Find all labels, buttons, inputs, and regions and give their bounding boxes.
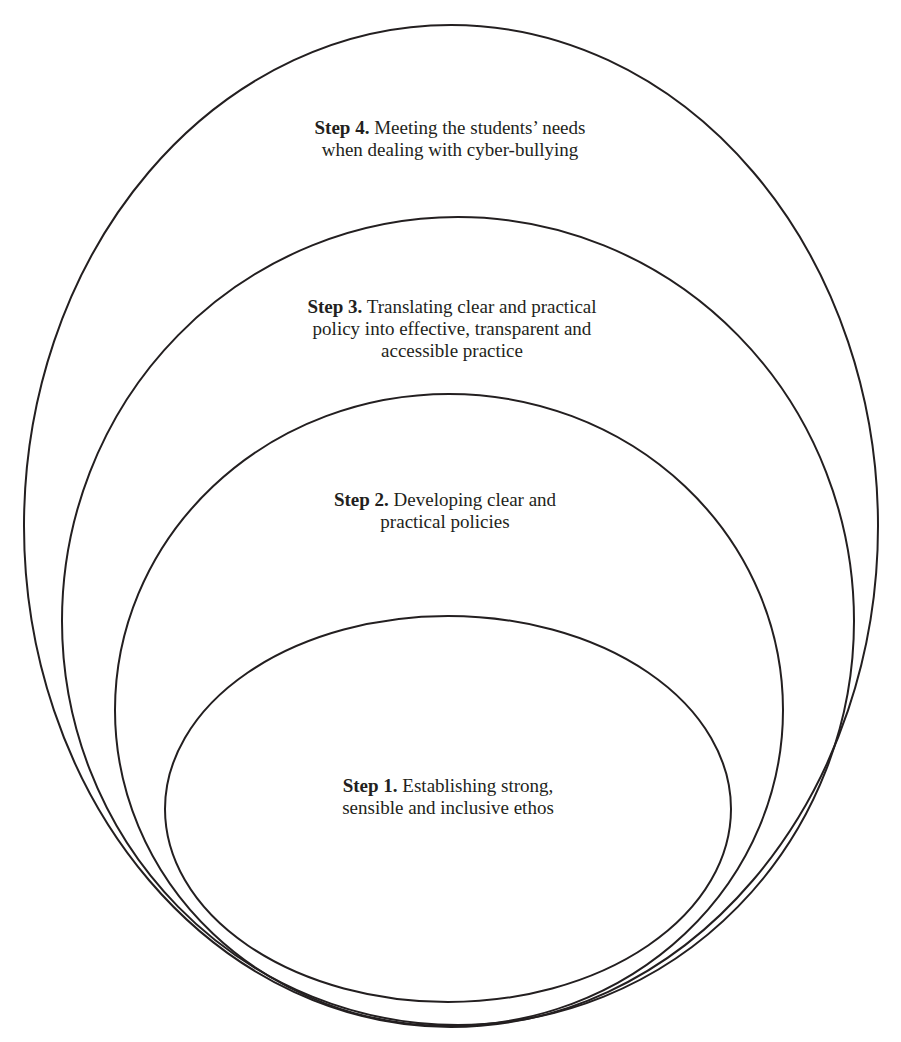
step3-label: Step 3. Translating clear and practical … — [307, 296, 596, 362]
step4-label: Step 4. Meeting the students’ needs when… — [315, 117, 586, 161]
step1-line1: Step 1. Establishing strong, — [342, 775, 554, 797]
step2-line1-text: Developing clear and — [389, 489, 556, 510]
step4-line1-text: Meeting the students’ needs — [369, 117, 585, 138]
step1-step-number: Step 1. — [343, 775, 398, 796]
step3-step-number: Step 3. — [307, 296, 362, 317]
step4-line2: when dealing with cyber-bullying — [315, 139, 586, 161]
step2-label: Step 2. Developing clear and practical p… — [334, 489, 556, 533]
step2-step-number: Step 2. — [334, 489, 389, 510]
step4-step-number: Step 4. — [315, 117, 370, 138]
step3-line1-text: Translating clear and practical — [362, 296, 596, 317]
step1-label: Step 1. Establishing strong, sensible an… — [342, 775, 554, 819]
step4-line1: Step 4. Meeting the students’ needs — [315, 117, 586, 139]
step3-line3: accessible practice — [307, 340, 596, 362]
step2-line1: Step 2. Developing clear and — [334, 489, 556, 511]
step1-line2: sensible and inclusive ethos — [342, 797, 554, 819]
nested-steps-diagram: Step 4. Meeting the students’ needs when… — [0, 0, 901, 1042]
step3-line2: policy into effective, transparent and — [307, 318, 596, 340]
step2-line2: practical policies — [334, 511, 556, 533]
step3-line1: Step 3. Translating clear and practical — [307, 296, 596, 318]
step1-line1-text: Establishing strong, — [398, 775, 554, 796]
